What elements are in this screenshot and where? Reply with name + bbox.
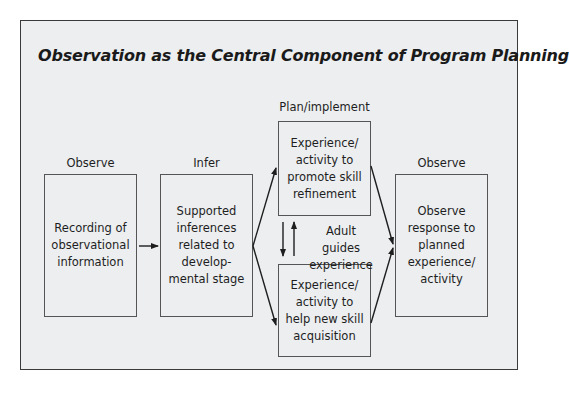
arrow-refinement-to-observe [371,166,393,244]
arrow-infer-to-refinement [253,168,276,246]
arrow-acquisition-to-observe [371,248,393,323]
arrow-infer-to-acquisition [253,246,276,325]
